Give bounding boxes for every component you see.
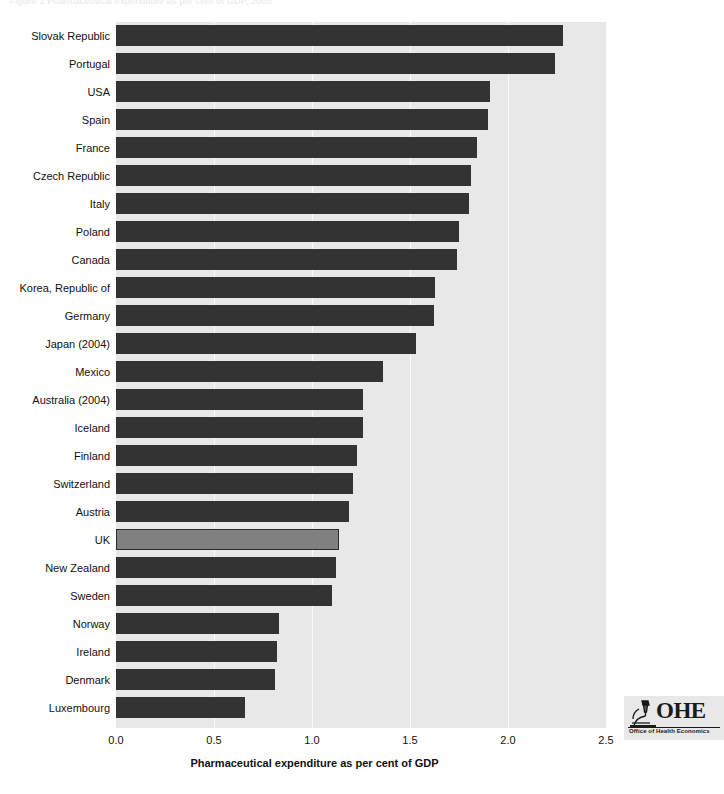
bar-row (116, 638, 606, 666)
bar-row (116, 526, 606, 554)
bar (116, 529, 339, 550)
bar (116, 669, 275, 690)
ohe-wordmark: OHE (656, 698, 706, 724)
category-label: UK (0, 526, 110, 554)
category-label: Iceland (0, 414, 110, 442)
bar (116, 137, 477, 158)
bar (116, 585, 332, 606)
bar-row (116, 554, 606, 582)
x-axis-title: Pharmaceutical expenditure as per cent o… (0, 757, 629, 769)
category-label: Poland (0, 218, 110, 246)
bar (116, 445, 357, 466)
value-axis-ticks: 0.00.51.01.52.02.5 (0, 734, 629, 750)
figure-caption: Figure 1 Pharmaceutical expenditure as p… (10, 0, 610, 6)
bar (116, 697, 245, 718)
bar-row (116, 218, 606, 246)
category-label: France (0, 134, 110, 162)
category-label: Italy (0, 190, 110, 218)
x-tick-label: 2.0 (500, 734, 515, 746)
bar-row (116, 610, 606, 638)
category-label: Denmark (0, 666, 110, 694)
category-label: Ireland (0, 638, 110, 666)
category-label: Czech Republic (0, 162, 110, 190)
bar-row (116, 330, 606, 358)
bar-row (116, 162, 606, 190)
bar-row (116, 498, 606, 526)
category-label: USA (0, 78, 110, 106)
category-label: Mexico (0, 358, 110, 386)
category-label: Australia (2004) (0, 386, 110, 414)
category-label: Switzerland (0, 470, 110, 498)
bar-row (116, 414, 606, 442)
category-label: Portugal (0, 50, 110, 78)
category-label: Korea, Republic of (0, 274, 110, 302)
gridline (606, 22, 607, 728)
plot-area: OHE Office of Health Economics (116, 22, 606, 728)
x-tick-label: 2.5 (598, 734, 613, 746)
bar-row (116, 50, 606, 78)
microscope-icon (626, 697, 660, 729)
bar-row (116, 582, 606, 610)
bar-row (116, 78, 606, 106)
bar (116, 557, 336, 578)
bar-row (116, 106, 606, 134)
bar (116, 165, 471, 186)
bar (116, 473, 353, 494)
bar (116, 249, 457, 270)
bar-row (116, 302, 606, 330)
bar (116, 417, 363, 438)
category-label: Germany (0, 302, 110, 330)
bar-row (116, 386, 606, 414)
x-tick-label: 1.0 (304, 734, 319, 746)
category-label: Slovak Republic (0, 22, 110, 50)
bar (116, 109, 488, 130)
bar (116, 277, 435, 298)
bar (116, 221, 459, 242)
bar-row (116, 358, 606, 386)
bar-row (116, 666, 606, 694)
category-label: Austria (0, 498, 110, 526)
bar (116, 333, 416, 354)
bar-row (116, 246, 606, 274)
bar-row (116, 190, 606, 218)
bar (116, 389, 363, 410)
bar (116, 641, 277, 662)
bar-row (116, 470, 606, 498)
bar-row (116, 22, 606, 50)
category-label: New Zealand (0, 554, 110, 582)
x-tick-label: 0.0 (108, 734, 123, 746)
category-label: Sweden (0, 582, 110, 610)
category-label: Luxembourg (0, 694, 110, 722)
bar-row (116, 274, 606, 302)
bar (116, 361, 383, 382)
category-label: Finland (0, 442, 110, 470)
category-label: Japan (2004) (0, 330, 110, 358)
bar-row (116, 134, 606, 162)
x-tick-label: 1.5 (402, 734, 417, 746)
bar (116, 53, 555, 74)
bar (116, 193, 469, 214)
bar (116, 501, 349, 522)
category-label: Norway (0, 610, 110, 638)
category-label: Canada (0, 246, 110, 274)
bar-row (116, 442, 606, 470)
x-tick-label: 0.5 (206, 734, 221, 746)
bar (116, 25, 563, 46)
bar-row (116, 694, 606, 722)
ohe-subtitle: Office of Health Economics (629, 728, 710, 734)
bar (116, 613, 279, 634)
ohe-logo: OHE Office of Health Economics (624, 696, 724, 740)
bar (116, 81, 490, 102)
category-label: Spain (0, 106, 110, 134)
bar (116, 305, 434, 326)
